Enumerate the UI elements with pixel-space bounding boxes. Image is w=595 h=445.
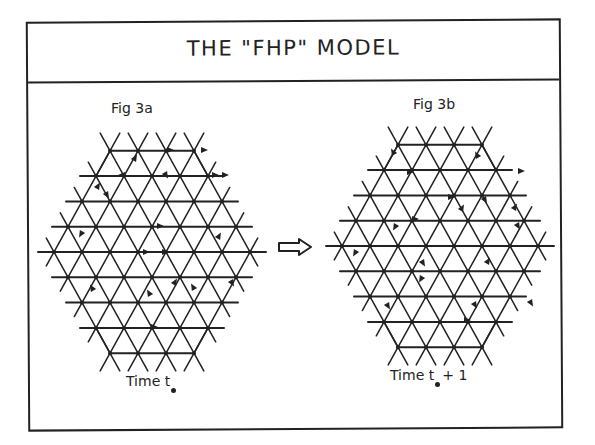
fig3b-time-label: Time t+ 1 <box>390 367 467 383</box>
fig3b-label: Fig 3b <box>413 96 455 112</box>
particle-icon <box>222 172 229 178</box>
lattice-diagrams <box>0 0 595 445</box>
particle-icon <box>390 223 399 232</box>
right-hollow-arrow-icon <box>277 238 313 260</box>
time-text: Time t <box>390 367 434 383</box>
fig3a-lattice <box>38 133 266 371</box>
particle-icon <box>228 279 237 288</box>
fig3a-time-label: Time t <box>126 373 178 389</box>
time-text: Time t <box>126 373 170 389</box>
particle-icon <box>157 223 164 229</box>
particle-icon <box>518 168 525 174</box>
particle-icon <box>188 282 197 291</box>
particle-icon <box>76 230 85 239</box>
time-increment: + 1 <box>442 367 467 383</box>
fig3b-lattice <box>326 127 554 365</box>
particle-icon <box>201 147 208 153</box>
particle-icon <box>143 249 150 255</box>
particle-icon <box>350 249 359 258</box>
particle-icon <box>167 147 174 153</box>
particle-icon <box>472 150 481 159</box>
particle-icon <box>527 299 536 308</box>
fig3a-label: Fig 3a <box>111 100 153 116</box>
particle-icon <box>419 259 428 268</box>
particle-icon <box>215 231 224 240</box>
